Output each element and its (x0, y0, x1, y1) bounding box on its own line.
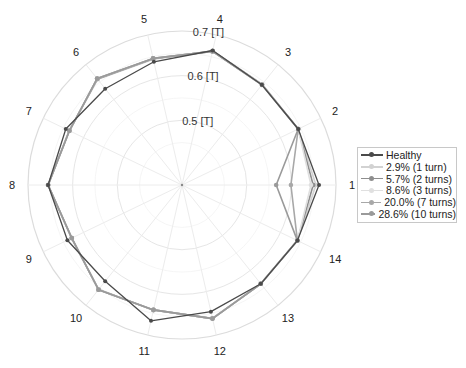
legend-marker-icon (361, 173, 383, 183)
axis-label-8: 8 (9, 179, 15, 191)
radial-tick-label: 0.5 [T] (182, 115, 213, 127)
legend-label: 5.7% (2 turns) (386, 173, 452, 185)
radial-tick-label: 0.7 [T] (193, 26, 224, 38)
legend-item-2-turns[interactable]: 5.7% (2 turns) (358, 173, 456, 185)
axis-label-1: 1 (349, 179, 355, 191)
axis-label-10: 10 (70, 312, 82, 324)
axis-label-6: 6 (73, 46, 79, 58)
axis-label-14: 14 (329, 253, 341, 265)
legend-marker-icon (361, 162, 383, 172)
legend-item-1-turn[interactable]: 2.9% (1 turn) (358, 161, 456, 173)
axis-label-4: 4 (217, 13, 223, 25)
axis-label-2: 2 (332, 105, 338, 117)
axis-label-3: 3 (285, 46, 291, 58)
legend-label: 8.6% (3 turns) (386, 184, 452, 196)
axis-label-13: 13 (282, 312, 294, 324)
legend: Healthy 2.9% (1 turn) 5.7% (2 turns) 8.6… (357, 147, 457, 223)
legend-label: 28.6% (10 turns) (378, 208, 456, 220)
radial-tick-label: 0.6 [T] (187, 70, 218, 82)
legend-marker-icon (361, 150, 383, 160)
legend-item-healthy[interactable]: Healthy (358, 149, 456, 161)
legend-marker-icon (361, 197, 381, 207)
axis-label-7: 7 (26, 105, 32, 117)
axis-label-12: 12 (214, 345, 226, 357)
axis-label-5: 5 (141, 13, 147, 25)
axis-label-9: 9 (26, 253, 32, 265)
legend-marker-icon (361, 209, 375, 219)
legend-marker-icon (361, 185, 383, 195)
legend-label: Healthy (386, 149, 422, 161)
legend-item-3-turns[interactable]: 8.6% (3 turns) (358, 184, 456, 196)
legend-item-7-turns[interactable]: 20.0% (7 turns) (358, 196, 456, 208)
radial-tick-labels: 0.5 [T]0.6 [T]0.7 [T] (182, 26, 224, 127)
legend-label: 2.9% (1 turn) (386, 161, 447, 173)
legend-item-10-turns[interactable]: 28.6% (10 turns) (358, 208, 456, 220)
legend-label: 20.0% (7 turns) (384, 196, 456, 208)
axis-label-11: 11 (138, 345, 149, 357)
